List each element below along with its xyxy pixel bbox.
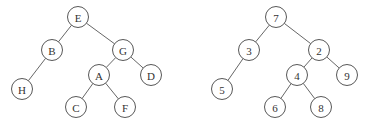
edge-G-D xyxy=(131,57,143,68)
edge-G-A xyxy=(106,58,115,68)
node-label: 2 xyxy=(316,45,322,57)
node-label: A xyxy=(95,70,103,82)
node-label: B xyxy=(48,45,55,57)
node-label: 7 xyxy=(273,12,279,24)
edge-2-4 xyxy=(304,58,312,67)
nodes: EBGHADCF73254968 xyxy=(12,7,358,118)
edge-E-B xyxy=(58,25,71,42)
tree-node-A: A xyxy=(89,65,110,86)
edges xyxy=(28,23,339,99)
edge-B-H xyxy=(28,58,45,80)
edge-A-C xyxy=(82,84,93,99)
edge-4-8 xyxy=(303,83,314,98)
node-label: C xyxy=(72,102,79,114)
node-label: 3 xyxy=(246,45,252,57)
tree-node-3: 3 xyxy=(239,40,260,61)
edge-7-3 xyxy=(256,25,270,42)
node-label: D xyxy=(147,70,155,82)
node-label: E xyxy=(75,12,82,24)
tree-node-D: D xyxy=(141,65,162,86)
node-label: H xyxy=(18,84,26,96)
node-label: 5 xyxy=(219,84,225,96)
node-label: F xyxy=(122,102,128,114)
tree-node-H: H xyxy=(12,79,33,100)
edge-4-6 xyxy=(281,84,291,99)
node-label: G xyxy=(119,45,127,57)
tree-node-E: E xyxy=(68,7,89,28)
node-label: 9 xyxy=(344,70,350,82)
edge-7-2 xyxy=(284,23,310,43)
tree-node-6: 6 xyxy=(265,97,286,118)
tree-node-4: 4 xyxy=(287,65,308,86)
tree-node-2: 2 xyxy=(309,40,330,61)
tree-node-C: C xyxy=(66,97,87,118)
edge-A-F xyxy=(106,83,119,99)
tree-node-7: 7 xyxy=(266,7,287,28)
tree-node-8: 8 xyxy=(311,97,332,118)
edge-E-G xyxy=(86,23,114,44)
tree-node-5: 5 xyxy=(212,79,233,100)
tree-node-G: G xyxy=(113,40,134,61)
tree-node-B: B xyxy=(42,40,63,61)
tree-node-9: 9 xyxy=(337,65,358,86)
tree-node-F: F xyxy=(115,97,136,118)
node-label: 4 xyxy=(294,70,300,82)
binary-trees-diagram: EBGHADCF73254968 xyxy=(0,0,370,127)
node-label: 6 xyxy=(272,102,278,114)
edge-3-5 xyxy=(228,59,243,81)
edge-2-9 xyxy=(327,57,339,68)
node-label: 8 xyxy=(318,102,324,114)
